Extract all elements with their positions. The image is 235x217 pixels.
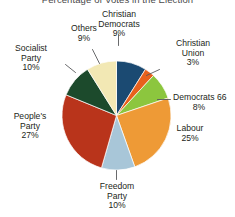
pie-label-labour-line1: Labour <box>177 123 204 133</box>
pie-label-labour: Labour 25% <box>161 124 219 143</box>
pie-label-christian-union-value: 3% <box>163 58 223 68</box>
leader-line-others <box>93 50 100 64</box>
pie-label-socialist-party: Socialist Party 10% <box>3 44 59 73</box>
pie-label-freedom-party-line2: Party <box>107 191 127 201</box>
pie-label-democrats-66: Democrats 66 8% <box>173 93 235 112</box>
pie-label-democrats-66-line1: Democrats 66 <box>173 92 227 102</box>
pie-label-freedom-party: Freedom Party 10% <box>88 182 146 211</box>
pie-label-peoples-party: People's Party 27% <box>2 112 58 141</box>
pie-label-others-line1: Others <box>71 23 97 33</box>
pie-label-freedom-party-line1: Freedom <box>100 181 134 191</box>
pie-label-peoples-party-line1: People's <box>14 111 47 121</box>
pie-label-others-value: 9% <box>61 34 107 44</box>
pie-label-peoples-party-value: 27% <box>2 131 58 141</box>
pie-label-socialist-party-value: 10% <box>3 63 59 73</box>
pie-chart-figure: Percentage of Votes in the Election Chri… <box>0 0 235 217</box>
pie-label-christian-democrats-line1: Christian <box>102 9 136 19</box>
leader-line-socialist-party <box>66 65 76 73</box>
pie-label-christian-union-line1: Christian <box>176 38 210 48</box>
pie-label-christian-union-line2: Union <box>182 48 204 58</box>
pie-label-christian-union: Christian Union 3% <box>163 39 223 68</box>
pie-label-others: Others 9% <box>61 24 107 43</box>
pie-label-socialist-party-line1: Socialist <box>15 43 47 53</box>
pie-label-labour-value: 25% <box>161 134 219 144</box>
pie-label-socialist-party-line2: Party <box>21 53 41 63</box>
pie-label-peoples-party-line2: Party <box>20 121 40 131</box>
pie-slices <box>62 61 171 170</box>
pie-label-freedom-party-value: 10% <box>88 201 146 211</box>
pie-label-democrats-66-value: 8% <box>173 103 225 113</box>
